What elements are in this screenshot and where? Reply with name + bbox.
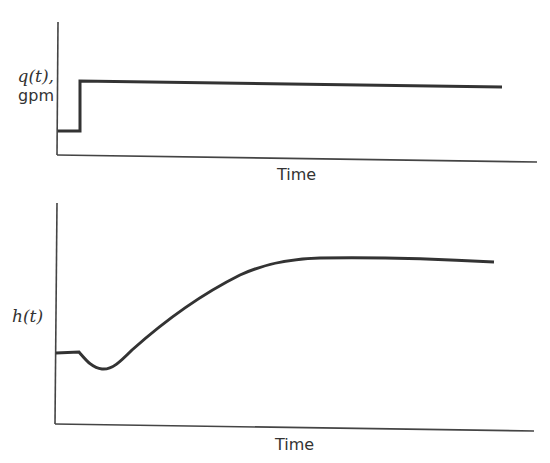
top-y-axis-label: q(t), gpm (8, 66, 54, 105)
top-y-unit: gpm (8, 86, 54, 105)
bottom-x-axis-label: Time (275, 435, 314, 454)
h-series-line (56, 258, 494, 369)
top-y-axis (57, 22, 58, 155)
top-x-axis (57, 155, 537, 162)
chart-canvas (0, 0, 550, 463)
bottom-y-axis (55, 203, 57, 424)
top-y-symbol: q(t), (18, 66, 54, 86)
bottom-x-axis (55, 424, 534, 431)
q-series-line (58, 81, 502, 131)
bottom-y-axis-label: h(t) (12, 306, 52, 326)
bottom-chart (55, 203, 534, 431)
top-chart (57, 22, 537, 162)
top-x-axis-label: Time (277, 165, 316, 184)
